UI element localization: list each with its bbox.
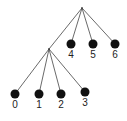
leaf-6-label: 6 (112, 49, 118, 60)
leaf-2-label: 2 (58, 99, 64, 110)
leaf-0-node (11, 90, 20, 99)
labels: 0123456 (12, 49, 118, 110)
edge-root-to-internal (49, 8, 82, 49)
leaf-4-node (67, 40, 76, 49)
leaf-4-label: 4 (68, 49, 74, 60)
edges (15, 8, 115, 94)
leaf-2-node (57, 90, 66, 99)
leaf-5-label: 5 (90, 49, 96, 60)
leaf-0-label: 0 (12, 99, 18, 110)
nodes (11, 7, 120, 98)
edge-root-to-leaf-6 (82, 8, 115, 44)
internal-node (48, 48, 50, 50)
edge-root-to-leaf-4 (71, 8, 82, 44)
tree-diagram: 0123456 (0, 0, 127, 121)
leaf-5-node (89, 40, 98, 49)
leaf-3-node (81, 88, 90, 97)
leaf-6-node (111, 40, 120, 49)
leaf-3-label: 3 (82, 97, 88, 108)
root-node (81, 7, 83, 9)
edge-root-to-leaf-5 (82, 8, 93, 44)
leaf-1-node (35, 90, 44, 99)
leaf-1-label: 1 (36, 99, 42, 110)
